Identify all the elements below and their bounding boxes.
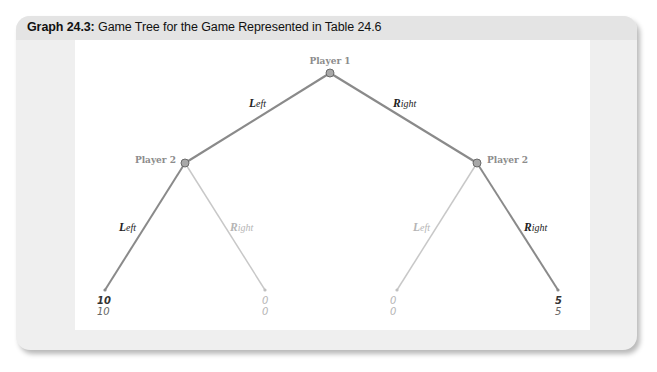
- edge-p2right-left: [397, 163, 477, 290]
- payoff-leaf4-player1: 5: [555, 295, 562, 306]
- player2-left-node: [181, 159, 189, 167]
- root-node: [326, 69, 334, 77]
- edge-label-cap: L: [248, 97, 256, 109]
- edge-label-rest: eft: [420, 222, 430, 233]
- edge-label-cap: L: [412, 221, 420, 233]
- edge-p2left-left: [105, 163, 185, 290]
- edge-label-root-right: Right: [392, 97, 416, 109]
- leaf-node-2: [263, 288, 266, 291]
- edge-root-left: [185, 73, 330, 163]
- edge-label-cap: R: [392, 97, 401, 109]
- payoff-leaf1-player1: 10: [97, 295, 111, 306]
- edge-label-rest: ight: [238, 222, 254, 233]
- player2-left-label: Player 2: [135, 155, 176, 165]
- payoff-leaf2-player2: 0: [262, 306, 268, 317]
- edge-label-rest: ight: [532, 222, 548, 233]
- edge-label-rest: eft: [126, 222, 136, 233]
- leaf-node-4: [556, 288, 559, 291]
- edge-label-cap: R: [523, 221, 532, 233]
- game-tree: Player 1 Player 2 Player 2 Left Right Le…: [0, 0, 657, 372]
- payoff-leaf3-player1: 0: [390, 295, 396, 306]
- payoff-leaf2-player1: 0: [262, 295, 268, 306]
- payoff-leaf3-player2: 0: [390, 306, 396, 317]
- edge-root-right: [330, 73, 477, 163]
- edge-label-rest: eft: [256, 98, 266, 109]
- edge-label-p2left-left: Left: [118, 221, 136, 233]
- player2-right-node: [473, 159, 481, 167]
- root-player-label: Player 1: [309, 56, 350, 66]
- payoff-leaf1-player2: 10: [97, 306, 110, 317]
- edge-label-cap: R: [229, 221, 238, 233]
- edge-label-rest: ight: [401, 98, 417, 109]
- payoff-leaf4-player2: 5: [555, 306, 561, 317]
- player2-right-label: Player 2: [487, 155, 528, 165]
- edge-label-cap: L: [118, 221, 126, 233]
- edge-label-p2right-left: Left: [412, 221, 430, 233]
- edge-label-root-left: Left: [248, 97, 266, 109]
- leaf-node-1: [103, 288, 106, 291]
- leaf-node-3: [395, 288, 398, 291]
- edge-label-p2right-right: Right: [523, 221, 547, 233]
- edge-label-p2left-right: Right: [229, 221, 253, 233]
